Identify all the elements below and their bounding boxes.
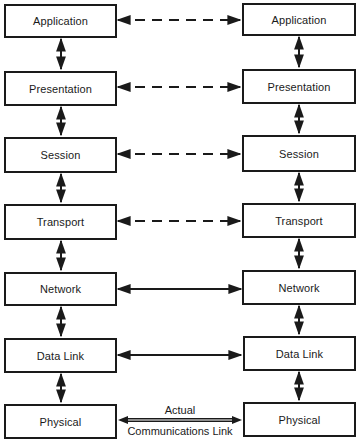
right-layer-network: Network bbox=[242, 270, 356, 305]
left-layer-network: Network bbox=[4, 272, 117, 306]
layer-label: Physical bbox=[40, 416, 82, 428]
right-layer-physical: Physical bbox=[243, 402, 356, 437]
right-layer-data-link: Data Link bbox=[243, 336, 356, 371]
layer-label: Presentation bbox=[29, 83, 92, 95]
left-layer-physical: Physical bbox=[4, 404, 117, 439]
layer-label: Transport bbox=[37, 216, 85, 228]
left-layer-presentation: Presentation bbox=[4, 71, 117, 106]
peer-links bbox=[118, 20, 241, 355]
right-layer-application: Application bbox=[242, 3, 356, 36]
layer-label: Session bbox=[41, 149, 81, 161]
layer-label: Transport bbox=[275, 215, 323, 227]
layer-label: Presentation bbox=[268, 81, 331, 93]
layer-label: Application bbox=[272, 14, 327, 26]
layer-label: Data Link bbox=[276, 348, 323, 360]
layer-label: Network bbox=[40, 283, 81, 295]
left-layer-transport: Transport bbox=[4, 204, 117, 240]
left-layer-application: Application bbox=[4, 4, 117, 38]
layer-label: Physical bbox=[279, 414, 321, 426]
left-layer-data-link: Data Link bbox=[4, 338, 117, 373]
peer-link-physical bbox=[118, 416, 242, 424]
right-layer-transport: Transport bbox=[242, 203, 356, 238]
left-layer-session: Session bbox=[4, 137, 117, 173]
physical-link-label-top: Actual bbox=[130, 404, 230, 416]
right-layer-session: Session bbox=[242, 135, 356, 172]
layer-label: Data Link bbox=[37, 350, 84, 362]
physical-link-label-bottom: Communications Link bbox=[118, 425, 242, 437]
layer-label: Application bbox=[33, 15, 88, 27]
layer-label: Network bbox=[278, 282, 319, 294]
right-layer-presentation: Presentation bbox=[242, 69, 356, 104]
layer-label: Session bbox=[279, 148, 319, 160]
